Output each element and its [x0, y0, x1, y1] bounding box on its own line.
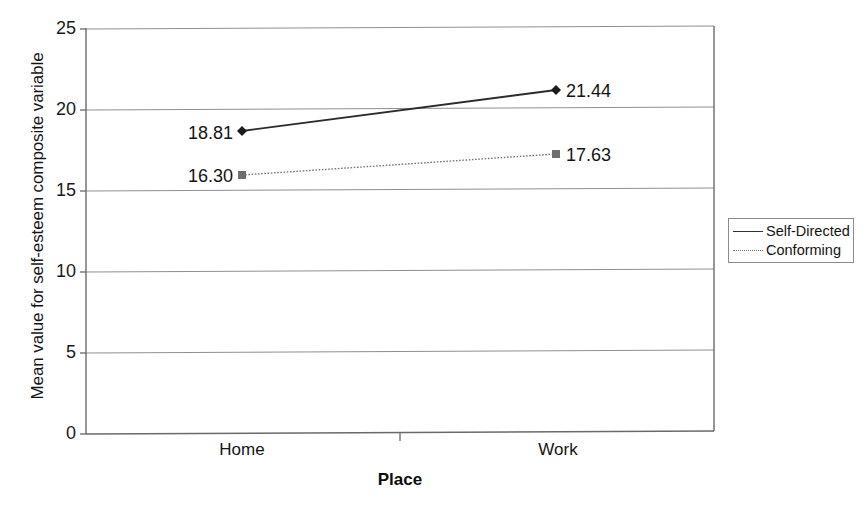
gridline-25: [86, 26, 714, 29]
legend-line-solid-icon: [733, 231, 763, 232]
legend-line-dotted-icon: [733, 250, 763, 251]
y-tick-marks: [80, 29, 86, 434]
series-conforming-line: [242, 154, 556, 175]
gridlines: [86, 26, 714, 353]
x-tick-label-home: Home: [192, 440, 292, 460]
gridline-15: [86, 188, 714, 191]
legend-key-self-directed: [733, 225, 763, 239]
legend-label-self-directed: Self-Directed: [766, 224, 850, 239]
chart-legend: Self-Directed Conforming: [728, 218, 854, 263]
series-self-directed-marker-home: [237, 126, 247, 136]
data-label-self-directed-work: 21.44: [566, 82, 611, 100]
data-label-self-directed-home: 18.81: [188, 124, 233, 142]
legend-label-conforming: Conforming: [766, 243, 841, 258]
x-axis-title: Place: [0, 470, 800, 490]
data-label-conforming-work: 17.63: [566, 146, 611, 164]
x-tick-label-work: Work: [508, 440, 608, 460]
legend-item-self-directed: Self-Directed: [729, 222, 853, 241]
series-self-directed-line: [242, 90, 556, 131]
legend-key-conforming: [733, 244, 763, 258]
gridline-10: [86, 269, 714, 272]
series-conforming: [238, 150, 560, 179]
gridline-5: [86, 350, 714, 353]
legend-item-conforming: Conforming: [729, 241, 853, 260]
series-conforming-marker-home: [238, 171, 246, 179]
chart-figure: Mean value for self-esteem composite var…: [0, 0, 865, 510]
data-label-conforming-home: 16.30: [188, 167, 233, 185]
series-conforming-marker-work: [552, 150, 560, 158]
series-self-directed-marker-work: [551, 85, 561, 95]
series-self-directed: [237, 85, 561, 136]
